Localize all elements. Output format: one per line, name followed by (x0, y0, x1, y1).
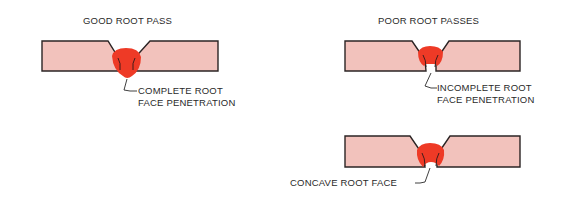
good-callout-line2: FACE PENETRATION (138, 97, 236, 109)
concave-callout: CONCAVE ROOT FACE (290, 177, 397, 189)
left-plate (42, 41, 121, 71)
leader-line (124, 79, 137, 91)
good-panel-title: GOOD ROOT PASS (83, 15, 172, 27)
incomplete-penetration-joint (345, 41, 520, 88)
weld-bead (418, 46, 443, 66)
right-plate (436, 41, 520, 71)
left-plate (345, 41, 426, 71)
left-plate (345, 136, 425, 167)
weld-bead (417, 143, 444, 167)
poor-panel-title: POOR ROOT PASSES (378, 15, 479, 27)
good-callout-line1: COMPLETE ROOT (138, 85, 223, 97)
leader-line (415, 168, 430, 183)
incomplete-callout-line2: FACE PENETRATION (437, 94, 535, 106)
concave-root-face-joint (345, 136, 520, 183)
weld-bead (112, 48, 141, 78)
leader-line (425, 73, 437, 88)
right-plate (131, 41, 218, 71)
incomplete-callout-line1: INCOMPLETE ROOT (437, 82, 532, 94)
right-plate (437, 136, 520, 167)
weld-root-pass-diagram: GOOD ROOT PASS POOR ROOT PASSES COMPLETE… (0, 0, 561, 200)
good-root-pass-joint (42, 41, 218, 91)
